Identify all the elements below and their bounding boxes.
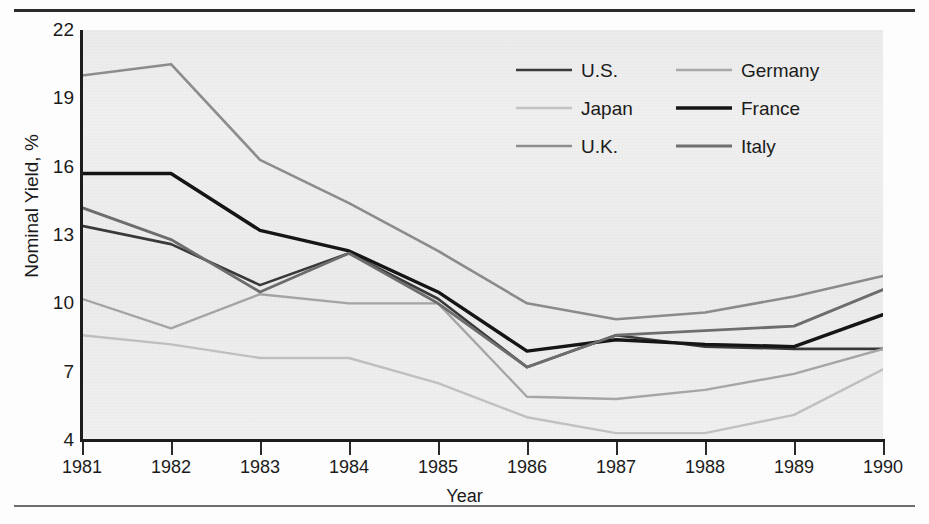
x-tick-mark: [883, 442, 885, 455]
legend-label-japan: Japan: [581, 99, 633, 118]
legend-entry-japan[interactable]: Japan: [516, 96, 628, 120]
x-axis-title: Year: [0, 486, 929, 507]
legend-line-swatch-france: [676, 105, 732, 111]
x-tick-label: 1982: [126, 458, 216, 476]
legend-entry-uk[interactable]: U.K.: [516, 134, 628, 158]
series-line-france: [82, 174, 883, 352]
x-tick-label: 1984: [304, 458, 394, 476]
x-tick-mark: [82, 442, 84, 455]
y-axis-line: [80, 30, 83, 442]
legend-line-swatch-japan: [516, 105, 572, 111]
x-tick-mark: [794, 442, 796, 455]
legend-line-swatch-us: [516, 67, 572, 73]
x-tick-label: 1986: [482, 458, 572, 476]
x-tick-mark: [616, 442, 618, 455]
x-tick-label: 1989: [749, 458, 839, 476]
figure-container: 221916131074 198119821983198419851986198…: [0, 0, 929, 524]
x-tick-label: 1981: [37, 458, 127, 476]
legend-label-us: U.S.: [581, 61, 618, 80]
x-tick-mark: [438, 442, 440, 455]
x-tick-mark: [260, 442, 262, 455]
legend-label-france: France: [741, 99, 800, 118]
x-tick-label: 1990: [838, 458, 928, 476]
legend-entry-germany[interactable]: Germany: [676, 58, 788, 82]
figure-top-rule: [14, 9, 915, 12]
x-axis-line: [80, 439, 885, 442]
x-tick-mark: [349, 442, 351, 455]
legend-entry-france[interactable]: France: [676, 96, 788, 120]
legend-entry-italy[interactable]: Italy: [676, 134, 788, 158]
y-tick-label: 22: [12, 20, 74, 39]
y-axis-title: Nominal Yield, %: [21, 96, 43, 316]
y-tick-label: 4: [12, 430, 74, 449]
legend-line-swatch-uk: [516, 143, 572, 149]
legend-label-uk: U.K.: [581, 137, 618, 156]
legend-line-swatch-italy: [676, 143, 732, 149]
legend-label-germany: Germany: [741, 61, 819, 80]
y-tick-label: 7: [12, 362, 74, 381]
series-line-italy: [82, 208, 883, 367]
legend-entry-us[interactable]: U.S.: [516, 58, 628, 82]
legend: U.S.GermanyJapanFranceU.K.Italy: [516, 58, 846, 158]
x-tick-label: 1983: [215, 458, 305, 476]
legend-label-italy: Italy: [741, 137, 776, 156]
x-tick-label: 1985: [393, 458, 483, 476]
x-tick-mark: [705, 442, 707, 455]
x-tick-mark: [171, 442, 173, 455]
x-tick-label: 1987: [571, 458, 661, 476]
x-tick-mark: [527, 442, 529, 455]
x-tick-label: 1988: [660, 458, 750, 476]
legend-line-swatch-germany: [676, 67, 732, 73]
